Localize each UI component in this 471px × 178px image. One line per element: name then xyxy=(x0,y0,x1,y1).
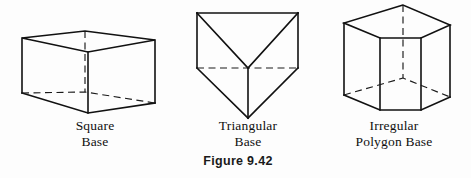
caption-irregular-polygon-base: Irregular Polygon Base xyxy=(318,118,470,149)
caption-triangular-line2: Base xyxy=(178,134,318,150)
square-base-prism-drawing xyxy=(22,31,155,113)
caption-triangular-line1: Triangular xyxy=(178,118,318,134)
irregular-polygon-base-prism-drawing xyxy=(344,5,450,110)
triangular-base-prism-drawing xyxy=(197,13,298,118)
caption-square-line2: Base xyxy=(25,134,165,150)
caption-triangular-base: Triangular Base xyxy=(178,118,318,149)
figure-plate: Square Base Triangular Base Irregular Po… xyxy=(0,0,471,178)
figure-number-label: Figure 9.42 xyxy=(163,154,313,168)
caption-square-base: Square Base xyxy=(25,118,165,149)
caption-irregular-line2: Polygon Base xyxy=(318,134,470,150)
prisms-line-art xyxy=(0,0,471,178)
caption-irregular-line1: Irregular xyxy=(318,118,470,134)
caption-square-line1: Square xyxy=(25,118,165,134)
